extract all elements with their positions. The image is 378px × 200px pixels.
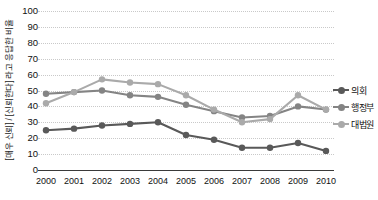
- data-point: [99, 76, 105, 82]
- series-layer: [38, 0, 334, 200]
- data-point: [127, 92, 133, 98]
- y-tick-20: 20: [14, 133, 38, 142]
- data-point: [295, 140, 301, 146]
- x-tick-2006: 2006: [204, 176, 224, 186]
- data-point: [99, 87, 105, 93]
- data-point: [127, 121, 133, 127]
- data-point: [155, 119, 161, 125]
- y-tick-50: 50: [14, 86, 38, 95]
- data-point: [183, 132, 189, 138]
- x-tick-2008: 2008: [260, 176, 280, 186]
- y-tick-60: 60: [14, 70, 38, 79]
- x-tick-2002: 2002: [92, 176, 112, 186]
- series-의회: [43, 119, 329, 154]
- data-point: [43, 100, 49, 106]
- legend-item-의회[interactable]: 의회: [333, 83, 378, 97]
- x-tick-2009: 2009: [288, 176, 308, 186]
- x-tick-2010: 2010: [316, 176, 336, 186]
- chart-container: [매우 신뢰] / [신뢰한다] 라고 응답한 비율 0102030405060…: [0, 0, 378, 200]
- y-tick-80: 80: [14, 38, 38, 47]
- legend-item-대법원[interactable]: 대법원: [333, 117, 378, 131]
- y-axis-tick-labels: 0102030405060708090100: [12, 0, 38, 200]
- series-line-대법원: [46, 79, 326, 122]
- data-point: [323, 148, 329, 154]
- x-tick-2005: 2005: [176, 176, 196, 186]
- data-point: [183, 102, 189, 108]
- data-point: [295, 103, 301, 109]
- data-point: [71, 89, 77, 95]
- data-point: [155, 81, 161, 87]
- legend-marker-icon: [333, 102, 349, 112]
- series-대법원: [43, 76, 329, 125]
- legend-label: 의회: [349, 84, 366, 97]
- data-point: [267, 116, 273, 122]
- y-tick-30: 30: [14, 117, 38, 126]
- data-point: [43, 90, 49, 96]
- data-point: [211, 137, 217, 143]
- data-point: [239, 119, 245, 125]
- x-tick-2003: 2003: [120, 176, 140, 186]
- data-point: [99, 122, 105, 128]
- y-tick-90: 90: [14, 22, 38, 31]
- legend-marker-icon: [333, 119, 349, 129]
- data-point: [323, 106, 329, 112]
- x-tick-2001: 2001: [64, 176, 84, 186]
- legend-marker-icon: [333, 85, 349, 95]
- data-point: [183, 92, 189, 98]
- legend-label: 행정부: [349, 101, 374, 114]
- y-tick-0: 0: [14, 165, 38, 174]
- y-tick-70: 70: [14, 54, 38, 63]
- y-tick-40: 40: [14, 101, 38, 110]
- x-tick-2007: 2007: [232, 176, 252, 186]
- data-point: [71, 125, 77, 131]
- x-tick-2004: 2004: [148, 176, 168, 186]
- x-axis-tick-labels: 2000200120022003200420052006200720082009…: [38, 176, 334, 194]
- chart-legend: 의회행정부대법원: [333, 83, 378, 134]
- data-point: [295, 92, 301, 98]
- data-point: [43, 127, 49, 133]
- legend-label: 대법원: [349, 118, 374, 131]
- plot-area: [38, 0, 334, 200]
- x-tick-2000: 2000: [36, 176, 56, 186]
- data-point: [239, 145, 245, 151]
- data-point: [127, 79, 133, 85]
- data-point: [155, 94, 161, 100]
- legend-item-행정부[interactable]: 행정부: [333, 100, 378, 114]
- y-tick-100: 100: [14, 6, 38, 15]
- data-point: [211, 106, 217, 112]
- y-tick-10: 10: [14, 149, 38, 158]
- data-point: [267, 145, 273, 151]
